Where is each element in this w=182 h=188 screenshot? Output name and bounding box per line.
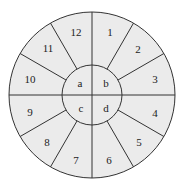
sector-label-1: 1	[107, 26, 113, 38]
quadrant-label-a: a	[78, 77, 83, 89]
sector-label-8: 8	[44, 136, 50, 148]
quadrant-label-b: b	[103, 77, 109, 89]
sector-label-12: 12	[71, 26, 82, 38]
sector-label-11: 11	[43, 42, 54, 54]
sector-label-2: 2	[135, 43, 141, 55]
sector-label-6: 6	[106, 154, 112, 166]
sector-label-9: 9	[27, 106, 33, 118]
quadrant-label-c: c	[79, 102, 84, 114]
circular-sector-diagram: 1 2 3 4 5 6 7 8 9 10 11 12 a b c d	[0, 0, 182, 188]
sector-label-3: 3	[152, 73, 158, 85]
sector-label-5: 5	[136, 136, 142, 148]
quadrant-label-d: d	[103, 102, 109, 114]
sector-label-7: 7	[73, 154, 79, 166]
sector-label-10: 10	[25, 73, 37, 85]
sector-label-4: 4	[152, 107, 158, 119]
